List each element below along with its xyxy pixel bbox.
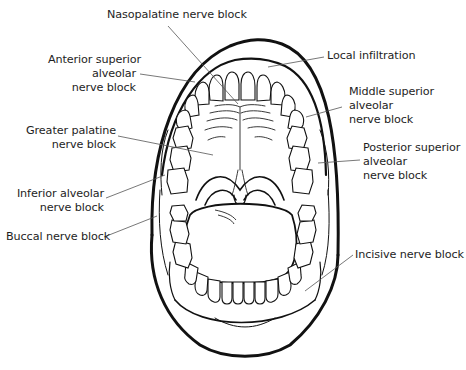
diagram-canvas: Nasopalatine nerve block Anterior superi… xyxy=(0,0,466,370)
label-line: Middle superior xyxy=(349,85,434,99)
label-line: Greater palatine xyxy=(20,124,116,138)
label-line: nerve block xyxy=(14,201,104,215)
leader-incisive xyxy=(305,255,353,291)
upper-central-incisor-r xyxy=(241,72,255,100)
label-line: Nasopalatine nerve block xyxy=(107,8,247,22)
label-line: alveolar xyxy=(349,99,434,113)
label-greater-palatine: Greater palatine nerve block xyxy=(20,124,116,152)
label-line: Posterior superior xyxy=(363,141,460,155)
label-line: nerve block xyxy=(48,81,136,95)
label-inferior-alveolar: Inferior alveolar nerve block xyxy=(14,187,104,215)
label-line: alveolar xyxy=(48,67,136,81)
label-line: nerve block xyxy=(349,113,434,127)
label-incisive-nerve-block: Incisive nerve block xyxy=(355,248,464,262)
label-nasopalatine-nerve-block: Nasopalatine nerve block xyxy=(107,8,247,22)
tongue xyxy=(184,204,296,284)
label-line: nerve block xyxy=(363,169,460,183)
label-line: alveolar xyxy=(363,155,460,169)
label-line: nerve block xyxy=(20,138,116,152)
label-posterior-superior-alveolar: Posterior superior alveolar nerve block xyxy=(363,141,460,183)
leader-anterior-superior xyxy=(140,74,195,82)
label-local-infiltration: Local infiltration xyxy=(327,49,415,63)
label-line: Inferior alveolar xyxy=(14,187,104,201)
leader-inferior-alveolar xyxy=(106,175,165,198)
upper-central-incisor-l xyxy=(225,72,239,100)
label-buccal-nerve-block: Buccal nerve block xyxy=(6,230,102,244)
label-line: Local infiltration xyxy=(327,49,415,63)
lower-lip-inner xyxy=(175,300,315,323)
label-middle-superior-alveolar: Middle superior alveolar nerve block xyxy=(349,85,434,127)
label-line: Anterior superior xyxy=(48,53,136,67)
leader-buccal xyxy=(104,216,157,237)
leader-middle-superior xyxy=(306,107,342,117)
label-line: Buccal nerve block xyxy=(6,230,102,244)
label-anterior-superior-alveolar: Anterior superior alveolar nerve block xyxy=(48,53,136,95)
label-line: Incisive nerve block xyxy=(355,248,464,262)
